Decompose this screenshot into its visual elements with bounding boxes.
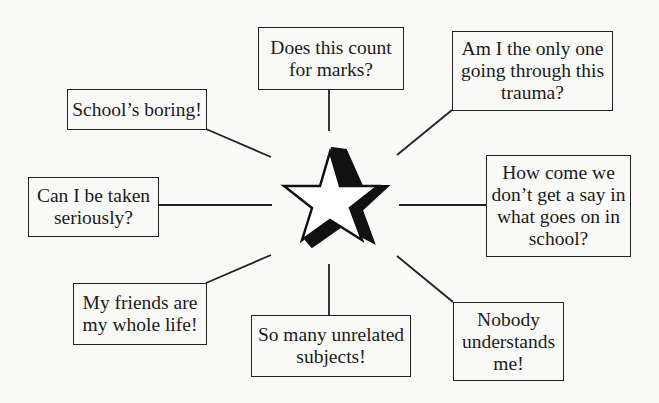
star-icon [284, 148, 388, 247]
node-nobody-text: Nobody understands me! [459, 309, 559, 375]
connector-trauma [397, 110, 452, 155]
node-friends: My friends are my whole life! [73, 283, 207, 345]
mind-map: Does this count for marks? Am I the only… [0, 0, 659, 403]
node-nobody: Nobody understands me! [453, 302, 564, 381]
node-boring: School’s boring! [67, 89, 207, 130]
node-serious: Can I be taken seriously? [28, 177, 159, 237]
node-serious-text: Can I be taken seriously? [33, 185, 154, 229]
node-subjects: So many unrelated subjects! [251, 315, 411, 377]
node-marks: Does this count for marks? [258, 27, 404, 90]
connector-friends [206, 255, 271, 283]
connector-boring [206, 129, 271, 157]
connector-nobody [397, 256, 453, 302]
node-boring-text: School’s boring! [72, 99, 201, 121]
node-friends-text: My friends are my whole life! [78, 292, 202, 336]
node-trauma: Am I the only one going through this tra… [452, 31, 613, 111]
node-say-text: How come we don’t get a say in what goes… [491, 162, 626, 250]
node-marks-text: Does this count for marks? [266, 37, 396, 81]
node-say: How come we don’t get a say in what goes… [486, 155, 631, 257]
node-subjects-text: So many unrelated subjects! [256, 324, 406, 368]
node-trauma-text: Am I the only one going through this tra… [458, 38, 608, 104]
